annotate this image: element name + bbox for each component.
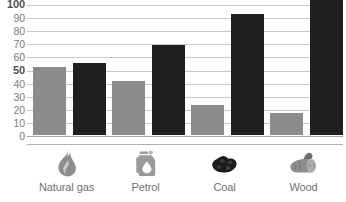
category-wood: Wood bbox=[264, 146, 343, 202]
y-tick-label: 20 bbox=[0, 105, 25, 115]
y-tick-label: 30 bbox=[0, 92, 25, 102]
y-tick-label: 70 bbox=[0, 39, 25, 49]
category-label: Coal bbox=[213, 181, 235, 193]
bar-petrol-light bbox=[112, 81, 145, 135]
y-tick-label: 10 bbox=[0, 118, 25, 128]
bar-wood-light bbox=[270, 113, 303, 135]
bar-chart-figure: 100 90 80 70 60 50 40 30 20 10 0 bbox=[0, 0, 346, 202]
bar-wood-dark bbox=[310, 0, 343, 135]
bars-layer bbox=[27, 5, 343, 145]
bar-coal-light bbox=[191, 105, 224, 135]
bar-coal-dark bbox=[231, 14, 264, 135]
y-tick-label: 90 bbox=[0, 13, 25, 23]
y-axis: 100 90 80 70 60 50 40 30 20 10 0 bbox=[0, 4, 25, 145]
category-axis: Natural gas Petrol bbox=[27, 146, 343, 202]
category-petrol: Petrol bbox=[106, 146, 185, 202]
category-coal: Coal bbox=[185, 146, 264, 202]
wood-log-icon bbox=[287, 148, 321, 178]
flame-icon bbox=[54, 148, 80, 178]
axis-baseline bbox=[27, 144, 343, 145]
category-label: Wood bbox=[289, 181, 317, 193]
y-tick-label: 60 bbox=[0, 52, 25, 62]
category-label: Natural gas bbox=[39, 181, 94, 193]
plot-area bbox=[27, 4, 343, 145]
bar-natural-gas-light bbox=[33, 67, 66, 135]
bar-petrol-dark bbox=[152, 45, 185, 135]
category-label: Petrol bbox=[131, 181, 159, 193]
coal-lump-icon bbox=[210, 148, 240, 178]
y-tick-label: 40 bbox=[0, 79, 25, 89]
y-tick-label: 100 bbox=[0, 0, 25, 9]
category-natural-gas: Natural gas bbox=[27, 146, 106, 202]
jerrycan-icon bbox=[133, 148, 159, 178]
y-tick-label: 0 bbox=[0, 131, 25, 141]
y-tick-label: 80 bbox=[0, 26, 25, 36]
bar-natural-gas-dark bbox=[73, 63, 106, 135]
y-tick-label: 50 bbox=[0, 65, 25, 75]
